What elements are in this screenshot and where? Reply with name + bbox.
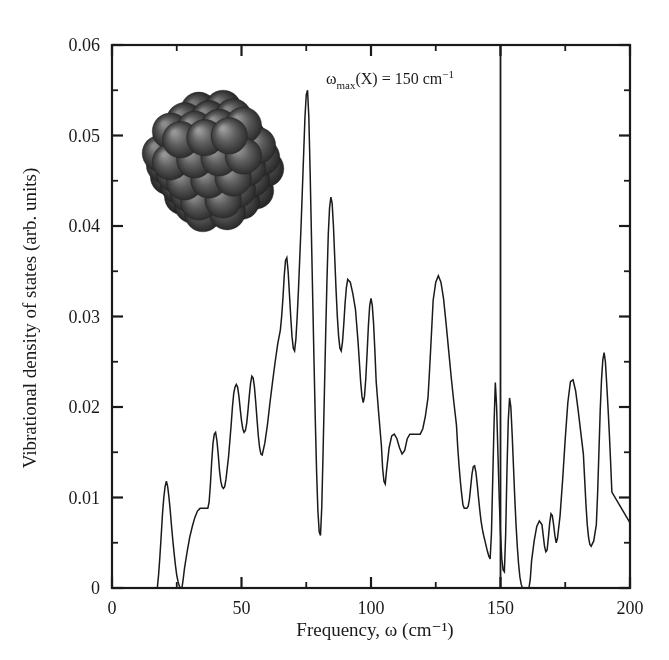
y-tick-label: 0.01 <box>69 488 101 508</box>
y-axis-tick-labels: 00.010.020.030.040.050.06 <box>69 35 101 598</box>
figure-panel: 050100150200 00.010.020.030.040.050.06 ω… <box>0 0 669 660</box>
y-tick-label: 0.05 <box>69 126 101 146</box>
x-axis-tick-labels: 050100150200 <box>108 598 644 618</box>
y-tick-label: 0 <box>91 578 100 598</box>
y-tick-label: 0.04 <box>69 216 101 236</box>
x-tick-label: 200 <box>617 598 644 618</box>
y-axis-ticks <box>112 45 630 588</box>
omega-max-annotation: ωmax(X) = 150 cm−1 <box>326 68 454 91</box>
y-tick-label: 0.03 <box>69 307 101 327</box>
plot-frame <box>112 45 630 588</box>
vdos-data-curve <box>112 90 630 588</box>
x-tick-label: 50 <box>233 598 251 618</box>
vdos-chart: 050100150200 00.010.020.030.040.050.06 ω… <box>0 0 669 660</box>
y-tick-label: 0.06 <box>69 35 101 55</box>
x-axis-ticks <box>112 45 630 588</box>
x-tick-label: 100 <box>358 598 385 618</box>
y-tick-label: 0.02 <box>69 397 101 417</box>
y-axis-title: Vibrational density of states (arb. unit… <box>19 168 41 469</box>
x-tick-label: 150 <box>487 598 514 618</box>
x-axis-title: Frequency, ω (cm⁻¹) <box>296 619 453 641</box>
x-tick-label: 0 <box>108 598 117 618</box>
